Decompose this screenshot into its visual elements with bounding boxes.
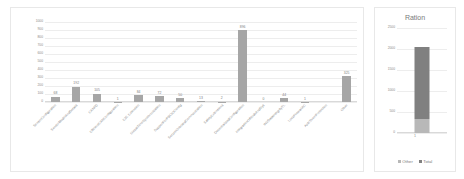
x-axis-category-label: AutoThemProtection (304, 104, 328, 128)
y-axis-tick-label: 400 (37, 68, 43, 71)
bar-group[interactable]: 1EfficientCANConfiguration (107, 22, 128, 102)
bar-group[interactable]: 72GlobalTimeSynchronization (149, 22, 170, 102)
bar-value-label: 1 (117, 98, 119, 101)
bar-group[interactable]: 2SafetyExtensions (211, 22, 232, 102)
y-axis-tick-label: 1000 (36, 20, 43, 23)
bar-group[interactable]: 44INVDataIntegrityTL (274, 22, 295, 102)
bar[interactable] (51, 97, 59, 102)
y-axis-tick-label: 800 (37, 36, 43, 39)
bar-group[interactable]: 896DecentralizedConfiguration (232, 22, 253, 102)
x-axis-category-label: INVDataIntegrityTL (264, 104, 287, 127)
chart-page: 10009008007006005004003002001000 68Senso… (0, 0, 464, 179)
bar[interactable] (134, 95, 142, 102)
bar[interactable] (155, 96, 163, 102)
left-plot-area: 10009008007006005004003002001000 68Senso… (45, 22, 357, 102)
gridline (397, 133, 447, 134)
y-axis-tick-label: 500 (37, 60, 43, 63)
gridline (397, 28, 447, 29)
y-axis-tick-label: 2500 (388, 26, 395, 29)
bar-group[interactable]: 50SupportForPBCIOConfig (170, 22, 191, 102)
bar[interactable] (238, 30, 246, 102)
bar-group[interactable]: 1LockFirewallAC (295, 22, 316, 102)
y-axis-tick-label: 600 (37, 52, 43, 55)
x-axis-category-label: Other (341, 104, 349, 112)
bar[interactable] (93, 94, 101, 102)
bar-value-label: 50 (178, 94, 182, 97)
bar-group[interactable]: 84E2E Extension (128, 22, 149, 102)
y-axis-tick-label: 700 (37, 44, 43, 47)
bar-value-label: 192 (73, 82, 79, 85)
bar-value-label: 105 (94, 89, 100, 92)
y-axis-tick-label: 2000 (388, 47, 395, 50)
left-bar-chart-panel: 10009008007006005004003002001000 68Senso… (10, 7, 364, 172)
right-bar-chart-panel: Ration 25002000150010005000 1 OtherTotal (374, 7, 456, 172)
bar-value-label: 325 (344, 72, 350, 75)
bar-value-label: 1 (304, 98, 306, 101)
bar-value-label: 13 (199, 97, 203, 100)
bar-value-label: 72 (158, 92, 162, 95)
bar-value-label: 0 (262, 98, 264, 101)
legend-item[interactable]: Total (419, 160, 432, 164)
bar-value-label: 896 (240, 26, 246, 29)
y-axis-tick-label: 300 (37, 76, 43, 79)
y-axis-tick-label: 1000 (388, 89, 395, 92)
bar[interactable] (176, 98, 184, 102)
x-axis-category-label: CANFD (89, 104, 100, 115)
legend-label: Other (402, 160, 412, 164)
y-axis-tick-label: 0 (41, 100, 43, 103)
bar-group[interactable]: 68SensorConfiguration (45, 22, 66, 102)
x-axis-category-label: E2E Extension (123, 104, 141, 122)
bar-group[interactable]: 13SecureOnboardCommunication (191, 22, 212, 102)
legend-swatch-icon (398, 160, 401, 163)
y-axis-tick-label: 100 (37, 92, 43, 95)
y-axis-tick-label: 900 (37, 28, 43, 31)
bar-value-label: 68 (54, 92, 58, 95)
bar-group[interactable]: AutoThemProtection (315, 22, 336, 102)
bar-group[interactable]: 0IntegrationOfNodeAndSys (253, 22, 274, 102)
bar[interactable] (342, 76, 350, 102)
right-chart-title: Ration (375, 14, 455, 21)
x-axis-category-label: LockFirewallAC (288, 104, 307, 123)
bar[interactable] (280, 98, 288, 102)
right-plot-area: 25002000150010005000 (397, 28, 447, 133)
bar-value-label: 2 (221, 97, 223, 100)
bar[interactable] (72, 87, 80, 102)
right-stacked-bar[interactable] (415, 47, 430, 133)
y-axis-tick-label: 200 (37, 84, 43, 87)
stacked-segment-other[interactable] (415, 119, 430, 133)
bar-group[interactable]: 192SensorModelAndDetails (66, 22, 87, 102)
legend-label: Total (423, 160, 432, 164)
stacked-segment-total[interactable] (415, 47, 430, 120)
y-axis-tick-label: 1500 (388, 68, 395, 71)
legend-item[interactable]: Other (398, 160, 413, 164)
bar-group[interactable]: 105CANFD (87, 22, 108, 102)
y-axis-tick-label: 500 (389, 110, 395, 113)
right-x-axis-label: 1 (375, 135, 455, 139)
x-axis-category-label: SafetyExtensions (203, 104, 224, 125)
bar-group[interactable]: 325Other (336, 22, 357, 102)
legend-swatch-icon (419, 160, 422, 163)
bar-value-label: 84 (137, 91, 141, 94)
right-chart-legend: OtherTotal (375, 160, 455, 164)
bar-value-label: 44 (282, 94, 286, 97)
left-bars-layer: 68SensorConfiguration192SensorModelAndDe… (45, 22, 357, 102)
